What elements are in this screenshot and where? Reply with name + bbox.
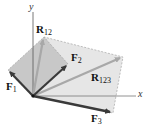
r12-label: R12: [36, 24, 52, 37]
origin-point: [31, 94, 34, 97]
r123-label: R123: [91, 72, 111, 85]
f2-label: F2: [71, 52, 82, 65]
f3-label: F3: [91, 113, 102, 126]
y-axis-label: y: [29, 2, 33, 12]
vector-diagram: [0, 0, 148, 131]
x-axis-label: x: [138, 89, 142, 99]
f1-label: F1: [6, 81, 17, 94]
